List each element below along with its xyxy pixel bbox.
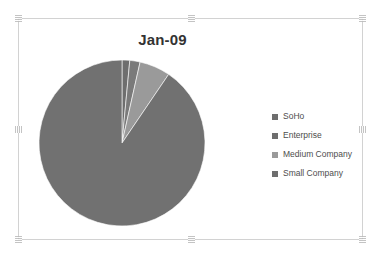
resize-handle-bottom-left[interactable]: [15, 236, 22, 243]
legend-swatch-icon-enterprise: [272, 133, 278, 139]
legend-item-enterprise[interactable]: Enterprise: [272, 126, 364, 145]
resize-handle-middle-left[interactable]: [15, 126, 22, 133]
legend-item-soho[interactable]: SoHo: [272, 107, 364, 126]
resize-handle-bottom-right[interactable]: [359, 236, 366, 243]
legend-label-medium-company: Medium Company: [283, 150, 352, 159]
legend-label-enterprise: Enterprise: [283, 131, 322, 140]
chart-title: Jan-09: [19, 31, 362, 48]
chart-legend[interactable]: SoHo Enterprise Medium Company Small Com…: [272, 107, 364, 183]
legend-label-soho: SoHo: [283, 112, 304, 121]
legend-swatch-icon-small-company: [272, 171, 278, 177]
pie-slice-group[interactable]: [39, 60, 205, 226]
legend-item-medium-company[interactable]: Medium Company: [272, 145, 364, 164]
pie-plot-area[interactable]: [27, 49, 217, 235]
legend-swatch-icon-soho: [272, 114, 278, 120]
resize-handle-top-right[interactable]: [359, 15, 366, 22]
pie-chart-svg[interactable]: [27, 49, 217, 235]
chart-object[interactable]: Jan-09 SoHo Enterprise Medium Company Sm…: [18, 18, 363, 240]
pie-slice-small-company[interactable]: [39, 60, 205, 226]
legend-item-small-company[interactable]: Small Company: [272, 164, 364, 183]
legend-label-small-company: Small Company: [283, 169, 343, 178]
resize-handle-bottom-center[interactable]: [188, 236, 195, 243]
legend-swatch-icon-medium-company: [272, 152, 278, 158]
resize-handle-top-left[interactable]: [15, 15, 22, 22]
resize-handle-top-center[interactable]: [188, 15, 195, 22]
